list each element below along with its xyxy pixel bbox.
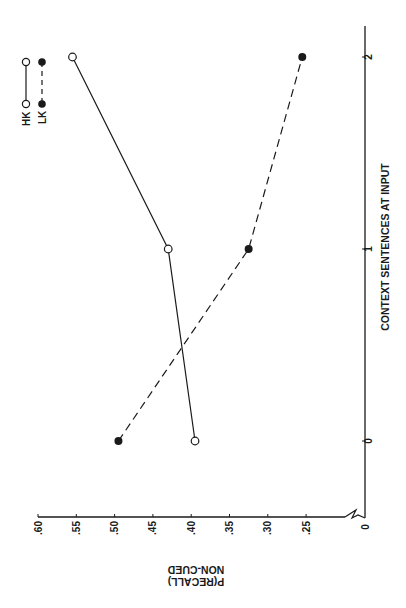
y-axis-title-line2: NON-CUED [167, 564, 224, 576]
filled-circle-icon [38, 100, 46, 108]
x-tick-label: 0 [363, 438, 374, 444]
y-tick-label: .60 [33, 521, 44, 535]
y-axis-title: P(RECALL) NON-CUED [167, 564, 224, 588]
y-tick-label: .50 [109, 521, 120, 535]
legend-label-hk: HK [21, 111, 32, 126]
y-tick-label: .30 [262, 521, 273, 535]
legend: HK LK [21, 58, 48, 126]
y-tick-label: .45 [147, 521, 158, 535]
y-axis-title-line1: P(RECALL) [168, 576, 225, 588]
line-chart: HK LK 012 CONTEXT SENTENCES AT INPUT .60… [0, 0, 406, 608]
y-tick-label: .40 [186, 521, 197, 535]
open-circle-icon [22, 100, 29, 107]
x-tick-label: 2 [363, 54, 374, 60]
series-hk [69, 53, 199, 445]
y-tick-label: .25 [301, 521, 312, 535]
axis-break-icon [345, 510, 365, 518]
filled-circle-marker-icon [245, 245, 253, 253]
y-tick-label: .55 [71, 521, 82, 535]
open-circle-marker-icon [69, 53, 77, 61]
legend-item-lk: LK [37, 58, 48, 124]
series-lk [114, 53, 306, 445]
filled-circle-marker-icon [114, 437, 122, 445]
filled-circle-icon [38, 58, 46, 66]
open-circle-icon [22, 58, 29, 65]
filled-circle-marker-icon [298, 53, 306, 61]
legend-label-lk: LK [37, 110, 48, 124]
x-axis-title: CONTEXT SENTENCES AT INPUT [379, 163, 391, 331]
x-axis: 012 CONTEXT SENTENCES AT INPUT [362, 26, 391, 518]
x-tick-label: 1 [363, 246, 374, 252]
y-origin-label: 0 [360, 524, 371, 530]
legend-item-hk: HK [21, 58, 32, 126]
y-axis: .60.55.50.45.40.35.30.25 0 P(RECALL) NON… [33, 510, 372, 588]
open-circle-marker-icon [164, 245, 172, 253]
y-tick-label: .35 [224, 521, 235, 535]
plot-area [69, 53, 307, 445]
open-circle-marker-icon [191, 437, 199, 445]
